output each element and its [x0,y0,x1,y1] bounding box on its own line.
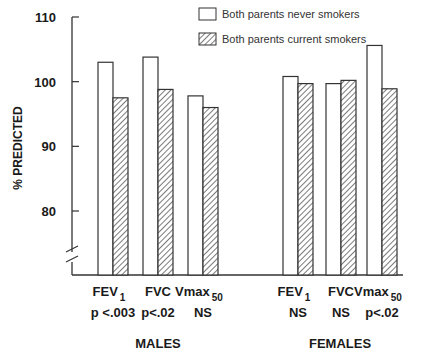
category-name: Vmax [354,284,389,299]
category-label: FVC [145,284,172,299]
bar-females-fvc-never [326,84,341,275]
legend-label-current: Both parents current smokers [222,33,367,45]
legend-swatch-current [199,33,216,45]
bar-females-fev-current [298,84,313,275]
bar-males-fvc-current [158,89,173,275]
p-value-label: NS [194,305,212,320]
category-name: Vmax [175,284,210,299]
bar-males-vmax-never [188,96,203,275]
category-subscript: 1 [305,292,311,303]
bar-males-fev-never [98,62,113,275]
bar-males-fvc-never [143,57,158,275]
axis-break-icon [66,246,78,262]
category-label: FVC [328,284,355,299]
legend: Both parents never smokers Both parents … [199,8,367,45]
bar-females-fev-never [283,76,298,275]
category-name: FVC [145,284,172,299]
bar-chart: 8090100110 FEV1p <.003FVCp<.02Vmax50NSMA… [0,0,423,355]
p-value-label: p<.02 [141,305,175,320]
p-value-label: NS [289,305,307,320]
bar-females-vmax-current [382,89,397,275]
bar-males-fev-current [113,98,128,275]
category-label: Vmax50 [175,284,223,303]
y-tick-label: 80 [42,204,56,219]
category-label: FEV1 [93,284,126,303]
y-tick-label: 90 [42,139,56,154]
y-tick-label: 110 [35,10,56,25]
category-name: FVC [328,284,355,299]
group-label-males: MALES [135,336,181,351]
y-tick-label: 100 [34,75,56,90]
category-subscript: 50 [212,292,224,303]
bar-females-fvc-current [341,80,356,275]
category-subscript: 50 [391,292,403,303]
p-value-label: p<.02 [365,305,399,320]
p-value-label: p <.003 [91,305,135,320]
y-axis-title: % PREDICTED [11,106,25,190]
bar-males-vmax-current [203,108,218,275]
category-label: FEV1 [278,284,311,303]
legend-swatch-never [199,8,216,20]
legend-label-never: Both parents never smokers [222,8,360,20]
category-label: Vmax50 [354,284,402,303]
p-value-label: NS [332,305,350,320]
category-name: FEV [93,284,119,299]
category-subscript: 1 [120,292,126,303]
group-label-females: FEMALES [309,336,371,351]
category-name: FEV [278,284,304,299]
bar-females-vmax-never [367,45,382,275]
